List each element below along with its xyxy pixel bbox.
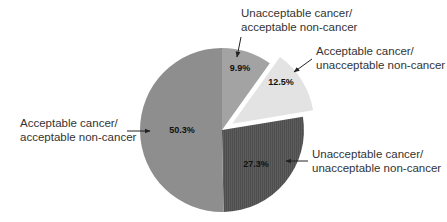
pie-slices: [140, 48, 313, 212]
slice-value-27-3: 27.3%: [243, 159, 269, 169]
slice-value-9-9: 9.9%: [230, 63, 251, 73]
callout-text-line2: acceptable non-cancer: [20, 131, 137, 143]
callout-text-line2: unacceptable non-cancer: [316, 59, 445, 71]
callout-text-line1: Unacceptable cancer/: [241, 7, 353, 19]
callout-acceptable-cancer-acceptable-noncancer: Acceptable cancer/ acceptable non-cancer: [20, 117, 150, 143]
arrow-icon: [294, 59, 312, 72]
callout-acceptable-cancer-unacceptable-noncancer: Acceptable cancer/ unacceptable non-canc…: [294, 45, 445, 72]
pie-chart: 9.9% 12.5% 27.3% 50.3% Unacceptable canc…: [0, 0, 447, 222]
callout-unacceptable-cancer-unacceptable-noncancer: Unacceptable cancer/ unacceptable non-ca…: [286, 148, 441, 174]
callout-text-line1: Acceptable cancer/: [20, 117, 119, 129]
slice-value-12-5: 12.5%: [268, 77, 294, 87]
callout-text-line1: Unacceptable cancer/: [312, 148, 424, 160]
callout-text-line2: unacceptable non-cancer: [312, 162, 441, 174]
callout-text-line1: Acceptable cancer/: [316, 45, 415, 57]
callout-text-line2: acceptable non-cancer: [241, 21, 358, 33]
slice-value-50-3: 50.3%: [169, 125, 195, 135]
